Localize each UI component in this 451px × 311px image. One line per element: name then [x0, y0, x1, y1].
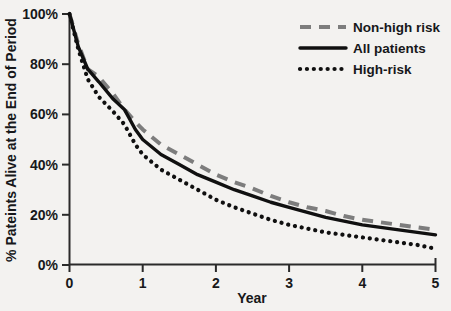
y-tick-label-3: 60%	[30, 106, 59, 122]
y-tick-label-1: 20%	[30, 207, 59, 223]
x-tick-label-5: 5	[432, 275, 440, 291]
x-tick-label-0: 0	[66, 275, 74, 291]
chart-canvas: 0%20%40%60%80%100% 012345 Year % Pateint…	[0, 0, 451, 311]
legend-label-2: High-risk	[353, 62, 412, 77]
legend-label-1: All patients	[353, 41, 426, 56]
x-tick-label-2: 2	[212, 275, 220, 291]
legend-label-0: Non-high risk	[353, 20, 440, 35]
survival-curve-chart: 0%20%40%60%80%100% 012345 Year % Pateint…	[0, 0, 451, 311]
y-axis-title: % Pateints Alive at the End of Period	[3, 18, 19, 262]
x-tick-label-1: 1	[139, 275, 147, 291]
x-tick-label-4: 4	[358, 275, 366, 291]
y-tick-label-4: 80%	[30, 56, 59, 72]
x-tick-label-3: 3	[285, 275, 293, 291]
x-axis-title: Year	[237, 290, 267, 306]
y-tick-label-2: 40%	[30, 157, 59, 173]
y-tick-label-5: 100%	[22, 6, 58, 22]
y-tick-label-0: 0%	[38, 257, 59, 273]
